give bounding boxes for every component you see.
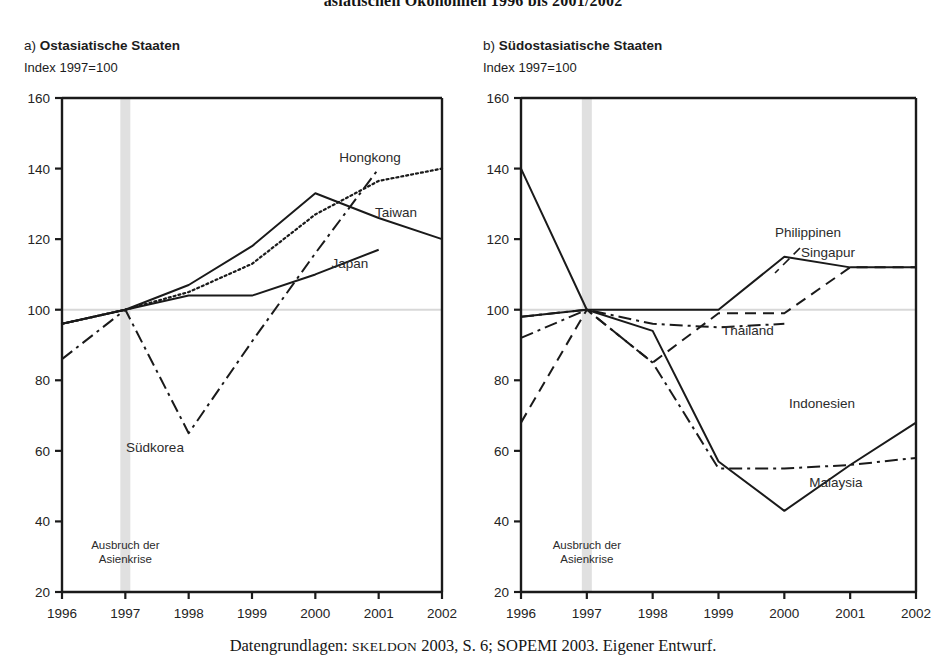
y-tick-label: 80: [494, 373, 509, 388]
x-tick-label: 1999: [703, 606, 733, 620]
series-line-singapur: [521, 257, 916, 317]
y-tick-label: 40: [494, 514, 509, 529]
y-tick-label: 140: [486, 162, 509, 177]
caption-rest: 2003, S. 6; SOPEMI 2003. Eigener Entwurf…: [417, 636, 716, 655]
y-tick-label: 20: [494, 585, 509, 600]
x-tick-label: 1996: [47, 606, 77, 620]
x-tick-label: 1997: [110, 606, 140, 620]
x-tick-label: 1998: [638, 606, 668, 620]
series-label-philippinen: Philippinen: [775, 225, 841, 240]
crisis-band: [120, 98, 130, 592]
chart-panel-b): 2040608010012014016019961997199819992000…: [486, 91, 931, 620]
x-tick-label: 2001: [835, 606, 865, 620]
y-tick-label: 160: [27, 91, 50, 106]
crisis-note-line1: Ausbruch der: [553, 539, 622, 551]
series-label-südkorea: Südkorea: [126, 440, 184, 455]
x-tick-label: 1997: [572, 606, 602, 620]
crisis-note-line2: Asienkrise: [99, 553, 152, 565]
series-label-indonesien: Indonesien: [789, 396, 855, 411]
x-tick-label: 2000: [769, 606, 799, 620]
x-tick-label: 2000: [300, 606, 330, 620]
x-tick-label: 1996: [506, 606, 536, 620]
y-tick-label: 100: [27, 303, 50, 318]
series-line-indonesien: [521, 169, 916, 511]
chart-svg: 2040608010012014016019961997199819992000…: [0, 0, 946, 620]
series-label-malaysia: Malaysia: [809, 475, 863, 490]
caption-prefix: Datengrundlagen:: [230, 636, 352, 655]
x-tick-label: 2002: [901, 606, 931, 620]
y-tick-label: 80: [35, 373, 50, 388]
crisis-band: [582, 98, 592, 592]
plot-area: 2040608010012014016019961997199819992000…: [0, 0, 946, 620]
y-tick-label: 60: [35, 444, 50, 459]
y-tick-label: 160: [486, 91, 509, 106]
source-caption: Datengrundlagen: Skeldon 2003, S. 6; SOP…: [0, 636, 946, 656]
y-tick-label: 40: [35, 514, 50, 529]
series-label-hongkong: Hongkong: [339, 150, 401, 165]
y-tick-label: 100: [486, 303, 509, 318]
series-line-südkorea: [62, 169, 379, 434]
y-tick-label: 140: [27, 162, 50, 177]
x-tick-label: 2001: [364, 606, 394, 620]
y-tick-label: 60: [494, 444, 509, 459]
series-label-singapur: Singapur: [801, 245, 856, 260]
x-tick-label: 1999: [237, 606, 267, 620]
series-line-malaysia: [521, 310, 916, 469]
x-tick-label: 1998: [174, 606, 204, 620]
series-label-thailand: Thailand: [722, 323, 774, 338]
caption-author: Skeldon: [352, 639, 417, 654]
series-label-taiwan: Taiwan: [375, 205, 417, 220]
crisis-note-line1: Ausbruch der: [91, 539, 160, 551]
series-line-philippinen: [521, 267, 916, 422]
series-label-japan: Japan: [332, 256, 369, 271]
y-tick-label: 20: [35, 585, 50, 600]
chart-panel-a): 2040608010012014016019961997199819992000…: [27, 91, 457, 620]
y-tick-label: 120: [486, 232, 509, 247]
x-tick-label: 2002: [427, 606, 457, 620]
crisis-note-line2: Asienkrise: [560, 553, 613, 565]
y-tick-label: 120: [27, 232, 50, 247]
